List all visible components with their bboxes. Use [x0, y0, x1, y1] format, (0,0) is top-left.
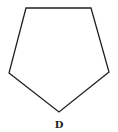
pentagon-shape: [9, 8, 109, 112]
shape-label: D: [55, 119, 64, 130]
pentagon-diagram: D: [0, 0, 118, 132]
